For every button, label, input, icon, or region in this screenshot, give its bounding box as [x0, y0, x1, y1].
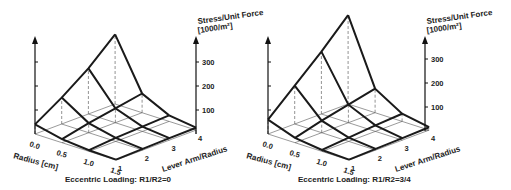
surface-line — [321, 52, 402, 139]
surface-line — [268, 120, 349, 160]
radius-tick-label: 0.0 — [261, 139, 274, 151]
z-tick-label: 100 — [202, 106, 215, 115]
lever-tick-label: 1 — [351, 164, 355, 173]
lever-tick-label: 4 — [198, 134, 203, 143]
lever-tick-label: 2 — [378, 154, 382, 163]
radius-tick-label: 1.0 — [82, 157, 95, 169]
surface-line — [348, 15, 429, 127]
surface-line — [62, 98, 143, 149]
z-tick-label: 200 — [431, 79, 444, 88]
surface-line — [88, 68, 169, 138]
arrow-up-icon — [422, 36, 428, 44]
lever-tick-label: 3 — [171, 144, 175, 153]
radius-axis-label: Radius [cm] — [245, 151, 292, 172]
radius-tick-label: 0.5 — [288, 148, 301, 160]
lever-tick-label: 1 — [118, 164, 122, 173]
surface-plot-r1r2-3-4: 100200300Stress/Unit Force[1000/m²]0.00.… — [245, 8, 493, 184]
plot-caption: Eccentric Loading: R1/R2=3/4 — [298, 175, 411, 184]
z-tick-label: 300 — [431, 55, 444, 64]
arrow-up-icon — [32, 36, 38, 44]
surface-plot-r1r2-0: 100200300Stress/Unit Force[1000/m²]0.00.… — [12, 8, 264, 184]
radius-tick-label: 0.5 — [55, 148, 68, 160]
arrow-up-icon — [265, 36, 271, 44]
surface-line — [115, 34, 196, 127]
arrow-up-icon — [193, 36, 199, 44]
lever-tick-label: 4 — [431, 134, 436, 143]
radius-axis-label: Radius [cm] — [12, 151, 59, 172]
chart-canvas: 100200300Stress/Unit Force[1000/m²]0.00.… — [0, 0, 511, 190]
radius-tick-label: 1.0 — [315, 157, 328, 169]
lever-tick-label: 3 — [404, 144, 408, 153]
radius-tick-label: 0.0 — [28, 139, 41, 151]
z-tick-label: 200 — [202, 82, 215, 91]
lever-tick-label: 2 — [145, 154, 149, 163]
plot-caption: Eccentric Loading: R1/R2=0 — [65, 175, 172, 184]
z-tick-label: 100 — [431, 103, 444, 112]
z-tick-label: 300 — [202, 58, 215, 67]
